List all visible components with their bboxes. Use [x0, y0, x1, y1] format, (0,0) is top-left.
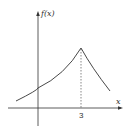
x-axis-label: x [116, 97, 121, 106]
y-axis-arrow-icon [36, 11, 40, 16]
x-axis-arrow-icon [118, 106, 123, 110]
curve-left [16, 48, 81, 101]
graph-canvas [0, 0, 127, 126]
curve-right [81, 48, 110, 91]
x-tick-3: 3 [79, 111, 83, 120]
y-axis-label: f(x) [41, 9, 55, 18]
graph: f(x) x 3 [0, 0, 127, 126]
